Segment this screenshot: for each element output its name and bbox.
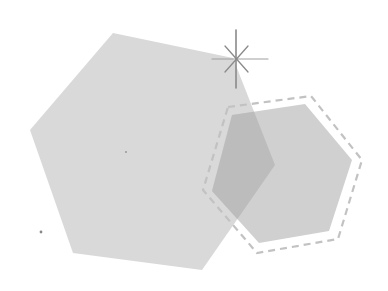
illustration-canvas	[0, 0, 388, 291]
speck-dot	[40, 231, 43, 234]
speck-dot	[125, 151, 127, 153]
hexagons-illustration	[0, 0, 388, 291]
